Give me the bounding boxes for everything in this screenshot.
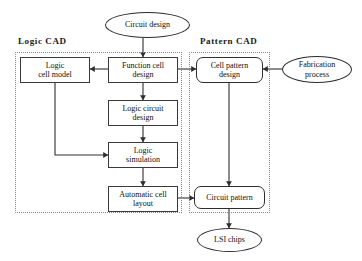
node-fabrication-process: Fabricationprocess — [282, 56, 352, 83]
node-logic-simulation: Logicsimulation — [108, 142, 178, 168]
node-label-logic-cell-model: Logiccell model — [36, 61, 74, 80]
diagram-canvas: Logic CADPattern CAD Circuit designLogic… — [0, 0, 362, 261]
node-label-circuit-pattern: Circuit pattern — [204, 193, 254, 202]
node-label-circuit-design: Circuit design — [123, 20, 172, 29]
node-circuit-design: Circuit design — [105, 12, 190, 38]
group-label-logic-cad: Logic CAD — [18, 36, 67, 46]
group-label-pattern-cad: Pattern CAD — [200, 36, 257, 46]
node-function-cell-design: Function celldesign — [108, 57, 178, 83]
node-label-function-cell-design: Function celldesign — [120, 61, 166, 80]
node-label-cell-pattern-design: Cell patterndesign — [209, 61, 251, 80]
node-label-logic-simulation: Logicsimulation — [124, 146, 162, 165]
node-automatic-cell-layout: Automatic celllayout — [108, 186, 178, 212]
node-lsi-chips: LSI chips — [197, 228, 262, 252]
node-label-lsi-chips: LSI chips — [212, 235, 247, 244]
node-label-fabrication-process: Fabricationprocess — [297, 60, 337, 79]
node-label-automatic-cell-layout: Automatic celllayout — [117, 190, 168, 209]
node-label-logic-circuit-design: Logic circuitdesign — [120, 104, 165, 123]
node-logic-circuit-design: Logic circuitdesign — [108, 100, 178, 126]
node-cell-pattern-design: Cell patterndesign — [196, 57, 263, 83]
node-logic-cell-model: Logiccell model — [20, 57, 90, 83]
node-circuit-pattern: Circuit pattern — [194, 186, 265, 209]
